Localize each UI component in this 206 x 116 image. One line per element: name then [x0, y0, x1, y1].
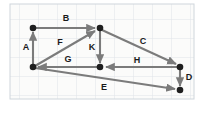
edge-label-A: A — [23, 42, 30, 52]
edge-label-C: C — [140, 36, 147, 46]
node-bottom-left[interactable] — [30, 64, 37, 71]
node-bottom-right[interactable] — [177, 87, 184, 94]
node-top-left[interactable] — [30, 25, 37, 32]
graph-diagram: A B F K C G H D E — [0, 0, 206, 116]
edge-label-G: G — [64, 54, 71, 64]
edge-label-B: B — [63, 13, 70, 23]
edge-label-E: E — [101, 82, 107, 92]
edge-label-K: K — [89, 42, 96, 52]
edge-label-F: F — [57, 37, 63, 47]
node-middle[interactable] — [97, 64, 104, 71]
node-right[interactable] — [177, 64, 184, 71]
node-top-center[interactable] — [97, 25, 104, 32]
diagram-canvas: A B F K C G H D E — [0, 0, 206, 116]
edge-label-D: D — [186, 72, 193, 82]
edge-label-H: H — [134, 55, 141, 65]
